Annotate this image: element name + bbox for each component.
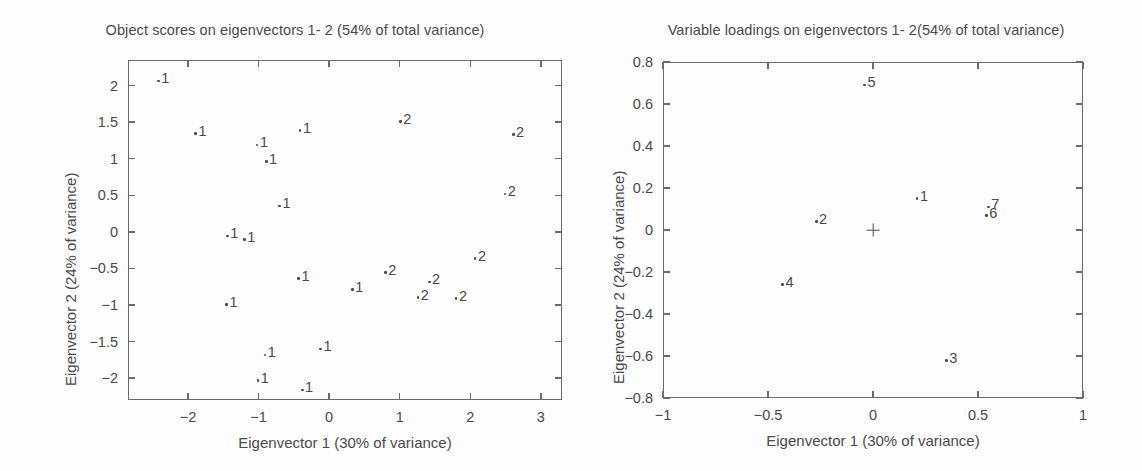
y-tick-label: −0.2: [601, 264, 653, 280]
data-point: 1: [256, 135, 268, 150]
x-tick-mark-mirror: [1082, 62, 1083, 69]
y-tick-label: −0.4: [601, 306, 653, 322]
point-label: 1: [230, 294, 238, 310]
y-tick-mark-mirror: [1076, 313, 1083, 314]
y-tick-label: 0: [601, 222, 653, 238]
y-tick-mark-mirror: [1076, 103, 1083, 104]
data-point: 2: [512, 125, 524, 140]
x-tick-mark-mirror: [540, 60, 541, 67]
point-marker-dot: [257, 379, 260, 382]
y-tick-label: 0.4: [601, 138, 653, 154]
point-label: 1: [302, 268, 310, 284]
x-tick-mark-mirror: [767, 62, 768, 69]
y-tick-mark: [663, 271, 670, 272]
data-point: 1: [299, 121, 311, 136]
x-tick-mark: [662, 391, 663, 398]
y-tick-mark: [128, 195, 135, 196]
y-tick-mark-mirror: [1076, 271, 1083, 272]
data-point: 1: [301, 380, 313, 395]
point-label: 1: [161, 70, 169, 86]
y-tick-mark-mirror: [555, 121, 562, 122]
data-point: 2: [815, 212, 827, 227]
point-label: 2: [508, 183, 516, 199]
y-tick-mark: [128, 158, 135, 159]
point-marker-dot: [399, 120, 402, 123]
y-tick-mark-mirror: [555, 195, 562, 196]
y-tick-label: 0: [66, 224, 118, 240]
point-marker-dot: [157, 80, 160, 83]
data-point: 2: [474, 249, 486, 264]
x-tick-mark-mirror: [977, 62, 978, 69]
data-point: 2: [417, 288, 429, 303]
point-marker-dot: [299, 129, 302, 132]
x-tick-mark-mirror: [399, 60, 400, 67]
x-tick-mark-mirror: [872, 62, 873, 69]
y-tick-mark: [663, 397, 670, 398]
point-label: 1: [355, 279, 363, 295]
y-tick-mark-mirror: [1076, 355, 1083, 356]
x-tick-mark-mirror: [470, 60, 471, 67]
y-tick-mark-mirror: [555, 341, 562, 342]
y-tick-mark: [663, 103, 670, 104]
data-point: 1: [225, 295, 237, 310]
point-marker-dot: [863, 84, 866, 87]
y-tick-mark-mirror: [1076, 229, 1083, 230]
point-label: 2: [459, 288, 467, 304]
data-point: 6: [985, 206, 997, 221]
x-tick-label: 1: [396, 409, 404, 425]
x-tick-mark-mirror: [662, 62, 663, 69]
point-marker-dot: [384, 271, 387, 274]
y-tick-mark-mirror: [555, 158, 562, 159]
point-marker-dot: [428, 281, 431, 284]
point-marker-dot: [264, 354, 267, 357]
x-tick-label: −1: [655, 407, 672, 423]
point-marker-dot: [455, 297, 458, 300]
y-tick-mark-mirror: [555, 231, 562, 232]
point-label: 2: [388, 262, 396, 278]
point-label: 1: [260, 134, 268, 150]
point-marker-dot: [815, 220, 818, 223]
point-marker-dot: [474, 257, 477, 260]
point-label: 1: [230, 225, 238, 241]
left-y-axis-title: Eigenvector 2 (24% of variance): [62, 173, 79, 386]
x-tick-mark: [187, 393, 188, 400]
y-tick-label: 0.6: [601, 96, 653, 112]
x-tick-mark: [977, 391, 978, 398]
data-point: 1: [265, 152, 277, 167]
point-label: 5: [867, 74, 875, 90]
data-point: 1: [157, 71, 169, 86]
x-tick-mark-mirror: [187, 60, 188, 67]
y-tick-label: 1.5: [66, 114, 118, 130]
left-panel-title: Object scores on eigenvectors 1- 2 (54% …: [0, 22, 590, 38]
y-tick-mark-mirror: [1076, 187, 1083, 188]
point-label: 1: [268, 344, 276, 360]
point-label: 2: [516, 124, 524, 140]
point-label: 3: [949, 350, 957, 366]
panel-variable-loadings: Variable loadings on eigenvectors 1- 2(5…: [590, 0, 1142, 471]
point-marker-dot: [256, 144, 259, 147]
data-point: 1: [226, 226, 238, 241]
x-tick-label: −0.5: [754, 407, 783, 423]
data-point: 1: [264, 345, 276, 360]
data-point: 2: [384, 263, 396, 278]
data-point: 1: [319, 339, 331, 354]
x-tick-mark: [540, 393, 541, 400]
point-label: 1: [199, 123, 207, 139]
x-tick-label: −2: [180, 409, 197, 425]
y-tick-mark-mirror: [555, 377, 562, 378]
point-marker-dot: [278, 205, 281, 208]
point-marker-dot: [945, 359, 948, 362]
x-tick-mark: [767, 391, 768, 398]
point-marker-dot: [351, 288, 354, 291]
y-tick-mark: [663, 313, 670, 314]
point-marker-dot: [985, 214, 988, 217]
data-point: 3: [945, 351, 957, 366]
point-marker-dot: [194, 132, 197, 135]
x-tick-label: 0: [869, 407, 877, 423]
data-point: 1: [257, 371, 269, 386]
point-label: 1: [305, 379, 313, 395]
y-tick-label: 1: [66, 151, 118, 167]
left-x-axis-title: Eigenvector 1 (30% of variance): [128, 434, 562, 451]
y-tick-mark: [128, 268, 135, 269]
point-label: 1: [269, 151, 277, 167]
